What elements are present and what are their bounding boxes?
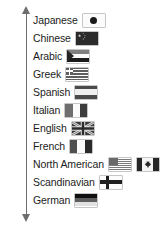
china-star-small — [82, 33, 84, 35]
list-item-label: North American — [33, 158, 104, 170]
flag-china-icon — [76, 32, 98, 45]
flag-band — [70, 140, 77, 153]
list-item-label: Chinese — [33, 32, 71, 44]
flag-group — [72, 122, 94, 135]
flag-group — [109, 158, 159, 171]
china-star-small — [82, 38, 84, 40]
flag-group — [76, 32, 98, 45]
list-item-label: Italian — [33, 104, 60, 116]
list-item: Italian — [33, 101, 164, 119]
maple-leaf-icon — [144, 161, 151, 168]
greece-canton-cross — [66, 68, 73, 75]
list-item-label: Japanese — [33, 14, 78, 26]
list-item: French — [33, 137, 164, 155]
flag-group — [75, 194, 97, 207]
flag-united-kingdom-icon — [72, 122, 94, 135]
flag-group — [65, 104, 87, 117]
list-item-label: Scandinavian — [33, 176, 95, 188]
japan-sun-disc — [90, 17, 97, 24]
list-item-label: Arabic — [33, 50, 62, 62]
flag-stripe — [66, 76, 88, 77]
union-jack-shape — [72, 122, 94, 135]
flag-france-icon — [70, 140, 92, 153]
flag-japan-icon — [83, 14, 105, 27]
flag-stripe — [66, 79, 88, 80]
flag-spain-icon — [75, 86, 97, 99]
flag-germany-icon — [75, 194, 97, 207]
usa-canton — [109, 158, 118, 165]
flag-group — [100, 176, 122, 189]
flag-group — [67, 50, 89, 63]
flag-band — [73, 104, 80, 117]
arrow-shaft — [26, 12, 27, 216]
flag-finland-icon — [100, 176, 122, 189]
flag-band — [65, 104, 72, 117]
list-item: Chinese — [33, 29, 164, 47]
flag-hoist-triangle — [67, 50, 74, 62]
flag-band — [137, 158, 143, 171]
figure-canvas: Japanese Chinese Arabic — [0, 0, 164, 228]
flag-canada-icon — [137, 158, 159, 171]
flag-band — [85, 140, 92, 153]
list-item-label: Greek — [33, 68, 61, 80]
china-star-small — [84, 35, 86, 37]
china-star-large — [78, 34, 82, 38]
flag-band — [77, 140, 84, 153]
china-star-small — [84, 37, 86, 39]
flag-band — [153, 158, 159, 171]
list-item: Arabic — [33, 47, 164, 65]
cross-horizontal — [66, 70, 73, 72]
flag-arab-icon — [67, 50, 89, 63]
vertical-double-arrow-icon — [22, 6, 31, 222]
list-item-label: Spanish — [33, 86, 70, 98]
list-item: Japanese — [33, 11, 164, 29]
flag-stripe — [109, 169, 131, 170]
list-item: English — [33, 119, 164, 137]
flag-group — [70, 140, 92, 153]
flag-italy-icon — [65, 104, 87, 117]
flag-group — [66, 68, 88, 81]
flag-united-states-icon — [109, 158, 131, 171]
flag-band — [75, 95, 97, 98]
flag-stripe — [109, 167, 131, 168]
list-item-label: English — [33, 122, 67, 134]
nordic-cross-horizontal — [100, 180, 122, 184]
arrow-head-down-icon — [22, 214, 30, 222]
flag-band — [80, 104, 87, 117]
flag-stripe — [109, 165, 131, 166]
list-item: Greek — [33, 65, 164, 83]
flag-band — [75, 202, 97, 206]
list-item: Scandinavian — [33, 173, 164, 191]
list-item: Spanish — [33, 83, 164, 101]
list-item-label: French — [33, 140, 65, 152]
list-item-label: German — [33, 194, 70, 206]
flag-group — [83, 14, 105, 27]
list-item: North American — [33, 155, 164, 173]
flag-greece-icon — [66, 68, 88, 81]
language-flag-list: Japanese Chinese Arabic — [33, 11, 164, 209]
flag-group — [75, 86, 97, 99]
list-item: German — [33, 191, 164, 209]
